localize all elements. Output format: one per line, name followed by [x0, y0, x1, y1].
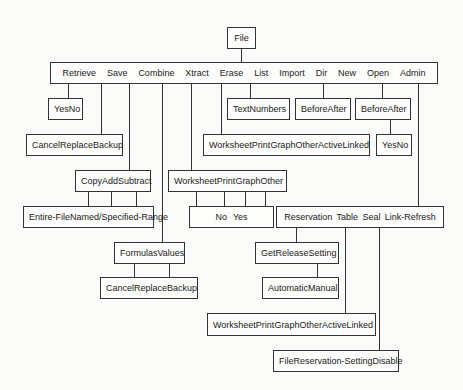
connector-erase-worksheet — [196, 191, 197, 206]
list-types-box: Worksheet Print Graph Other Active Linke… — [203, 134, 370, 156]
option-named-specified-range[interactable]: Named/Specified-Range — [70, 212, 168, 222]
table-types-box: Worksheet Print Graph Other Active Linke… — [207, 313, 376, 336]
connector-combine — [129, 84, 130, 170]
option-get[interactable]: Get — [261, 248, 276, 258]
connector-erase-graph — [245, 191, 246, 206]
option-replace[interactable]: Replace — [134, 283, 167, 293]
menu-item-dir[interactable]: Dir — [316, 68, 328, 78]
option-no[interactable]: No — [215, 212, 227, 222]
open-confirm-box: Yes No — [376, 134, 412, 156]
option-yes[interactable]: Yes — [382, 140, 397, 150]
option-other[interactable]: Other — [260, 176, 283, 186]
seal-options-box: File Reservation-Setting Disable — [273, 350, 399, 372]
option-file[interactable]: File — [279, 356, 294, 366]
option-after[interactable]: After — [388, 104, 407, 114]
reservation-options-box: Get Release Setting — [255, 242, 339, 264]
option-cancel[interactable]: Cancel — [32, 140, 60, 150]
menu-item-open[interactable]: Open — [367, 68, 389, 78]
option-worksheet[interactable]: Worksheet — [209, 140, 252, 150]
option-print[interactable]: Print — [252, 140, 271, 150]
menu-item-new[interactable]: New — [338, 68, 356, 78]
option-graph[interactable]: Graph — [235, 176, 260, 186]
option-active[interactable]: Active — [318, 140, 343, 150]
xtract-options-box: Cancel Replace Backup — [100, 277, 198, 299]
erase-types-box: Worksheet Print Graph Other — [168, 170, 287, 192]
option-before[interactable]: Before — [301, 104, 328, 114]
option-replace[interactable]: Replace — [60, 140, 93, 150]
connector-admin — [418, 84, 419, 206]
option-backup[interactable]: Backup — [93, 140, 123, 150]
option-print[interactable]: Print — [256, 320, 275, 330]
connector-import — [250, 84, 251, 98]
option-no[interactable]: No — [397, 140, 409, 150]
option-print[interactable]: Print — [217, 176, 236, 186]
option-release[interactable]: Release — [276, 248, 309, 258]
menu-item-save[interactable]: Save — [107, 68, 128, 78]
option-copy[interactable]: Copy — [81, 176, 102, 186]
save-options-box: Cancel Replace Backup — [26, 134, 123, 156]
reservation-setting-box: Automatic Manual — [262, 277, 339, 299]
option-linked[interactable]: Linked — [342, 140, 369, 150]
connector-new — [323, 84, 324, 98]
file-root-box[interactable]: File — [227, 27, 256, 49]
option-yes[interactable]: Yes — [233, 212, 248, 222]
connector-list — [221, 84, 222, 134]
import-types-box: Text Numbers — [227, 98, 290, 120]
option-active[interactable]: Active — [322, 320, 347, 330]
menu-item-list[interactable]: List — [254, 68, 268, 78]
file-menu-bar: Retrieve Save Combine Xtract Erase List … — [50, 62, 438, 84]
option-linked[interactable]: Linked — [346, 320, 373, 330]
option-setting[interactable]: Setting — [309, 248, 337, 258]
menu-item-xtract[interactable]: Xtract — [185, 68, 209, 78]
option-formulas[interactable]: Formulas — [120, 248, 158, 258]
connector-table — [345, 227, 346, 313]
option-subtract[interactable]: Subtract — [118, 176, 152, 186]
option-cancel[interactable]: Cancel — [106, 283, 134, 293]
option-link-refresh[interactable]: Link-Refresh — [385, 212, 436, 222]
option-values[interactable]: Values — [158, 248, 185, 258]
connector-setting — [317, 263, 318, 277]
option-manual[interactable]: Manual — [308, 283, 338, 293]
option-worksheet[interactable]: Worksheet — [213, 320, 256, 330]
menu-item-combine[interactable]: Combine — [138, 68, 174, 78]
connector-reservation — [296, 227, 297, 242]
option-graph[interactable]: Graph — [274, 320, 299, 330]
connector-erase-other — [265, 191, 266, 206]
option-seal[interactable]: Seal — [362, 212, 380, 222]
connector-copy — [88, 191, 89, 206]
option-no[interactable]: No — [69, 104, 81, 114]
connector-retrieve — [68, 84, 69, 98]
menu-item-erase[interactable]: Erase — [220, 68, 244, 78]
option-disable[interactable]: Disable — [373, 356, 403, 366]
option-entire-file[interactable]: Entire-File — [29, 212, 70, 222]
option-graph[interactable]: Graph — [270, 140, 295, 150]
connector-add — [111, 191, 112, 206]
combine-range-box: Entire-File Named/Specified-Range — [23, 206, 154, 228]
open-position-box: Before After — [355, 98, 411, 120]
connector-seal — [379, 227, 380, 350]
menu-item-retrieve[interactable]: Retrieve — [62, 68, 96, 78]
option-worksheet[interactable]: Worksheet — [174, 176, 217, 186]
erase-confirm-box: No Yes — [189, 206, 274, 228]
combine-ops-box: Copy Add Subtract — [75, 170, 151, 192]
file-label: File — [234, 33, 249, 43]
option-other[interactable]: Other — [299, 320, 322, 330]
menu-item-admin[interactable]: Admin — [400, 68, 426, 78]
option-numbers[interactable]: Numbers — [250, 104, 287, 114]
connector-save — [101, 84, 102, 134]
option-automatic[interactable]: Automatic — [268, 283, 308, 293]
option-backup[interactable]: Backup — [167, 283, 197, 293]
option-after[interactable]: After — [328, 104, 347, 114]
option-text[interactable]: Text — [233, 104, 250, 114]
option-other[interactable]: Other — [295, 140, 318, 150]
option-add[interactable]: Add — [102, 176, 118, 186]
option-table[interactable]: Table — [337, 212, 359, 222]
xtract-types-box: Formulas Values — [114, 242, 185, 264]
retrieve-confirm-box: Yes No — [48, 98, 83, 120]
option-reservation[interactable]: Reservation — [284, 212, 332, 222]
option-reservation-setting[interactable]: Reservation-Setting — [294, 356, 373, 366]
option-yes[interactable]: Yes — [54, 104, 69, 114]
connector-formulas — [134, 263, 135, 277]
menu-item-import[interactable]: Import — [279, 68, 305, 78]
option-before[interactable]: Before — [361, 104, 388, 114]
